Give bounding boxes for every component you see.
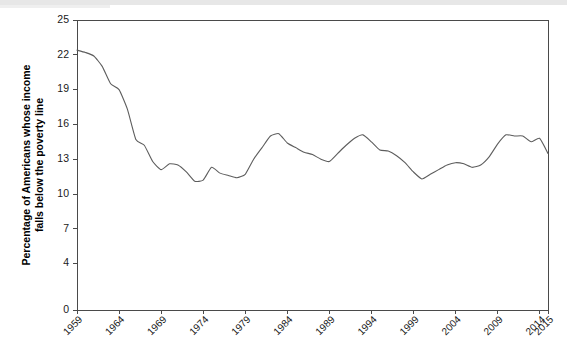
y-tick-label: 0	[63, 303, 69, 315]
x-tick-label: 1994	[355, 313, 379, 337]
x-tick-label: 1999	[397, 313, 421, 337]
y-tick-label: 4	[63, 256, 69, 268]
x-tick-label: 1969	[145, 313, 169, 337]
y-tick-label: 16	[57, 117, 69, 129]
x-tick-label: 1984	[271, 313, 295, 337]
poverty-rate-chart-page: 252219161310740 195919641969197419791984…	[0, 0, 567, 360]
x-tick-label: 1979	[229, 313, 253, 337]
y-tick-label: 22	[57, 48, 69, 60]
line-chart: 252219161310740 195919641969197419791984…	[0, 0, 567, 360]
y-tick-label: 19	[57, 82, 69, 94]
x-tick-label: 2009	[481, 313, 505, 337]
y-axis-title-line-2: falls below the poverty line	[33, 98, 45, 232]
poverty-rate-line	[77, 50, 548, 181]
y-tick-label: 7	[63, 222, 69, 234]
y-axis-title: Percentage of Americans whose incomefall…	[20, 64, 45, 265]
x-tick-label: 1964	[103, 313, 127, 337]
data-series-group	[77, 50, 548, 181]
y-tick-label: 10	[57, 187, 69, 199]
y-axis-ticks: 252219161310740	[57, 13, 77, 315]
plot-frame	[77, 20, 548, 310]
x-tick-label: 2004	[439, 313, 463, 337]
y-tick-label: 25	[57, 13, 69, 25]
x-axis-ticks: 1959196419691974197919841989199419992004…	[61, 310, 556, 337]
axis-frame	[77, 20, 548, 310]
x-tick-label: 1959	[61, 313, 85, 337]
x-tick-label: 1989	[313, 313, 337, 337]
y-tick-label: 13	[57, 152, 69, 164]
y-axis-title-line-1: Percentage of Americans whose income	[20, 64, 32, 265]
x-tick-label: 1974	[187, 313, 211, 337]
